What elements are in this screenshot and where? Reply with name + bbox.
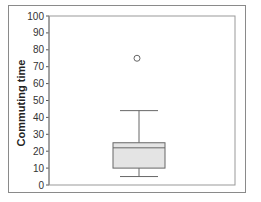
box-plot: 0102030405060708090100 <box>0 0 261 202</box>
iqr-box <box>113 143 165 168</box>
y-axis: 0102030405060708090100 <box>27 11 49 191</box>
outlier-point <box>134 55 140 61</box>
y-tick-label: 10 <box>33 163 45 174</box>
y-tick-label: 20 <box>33 146 45 157</box>
y-tick-label: 40 <box>33 112 45 123</box>
y-tick-label: 60 <box>33 78 45 89</box>
y-tick-label: 100 <box>27 11 44 22</box>
y-tick-label: 80 <box>33 44 45 55</box>
y-tick-label: 50 <box>33 95 45 106</box>
y-tick-label: 70 <box>33 61 45 72</box>
plot-area <box>49 16 235 185</box>
y-tick-label: 30 <box>33 129 45 140</box>
y-tick-label: 90 <box>33 27 45 38</box>
y-tick-label: 0 <box>38 180 44 191</box>
